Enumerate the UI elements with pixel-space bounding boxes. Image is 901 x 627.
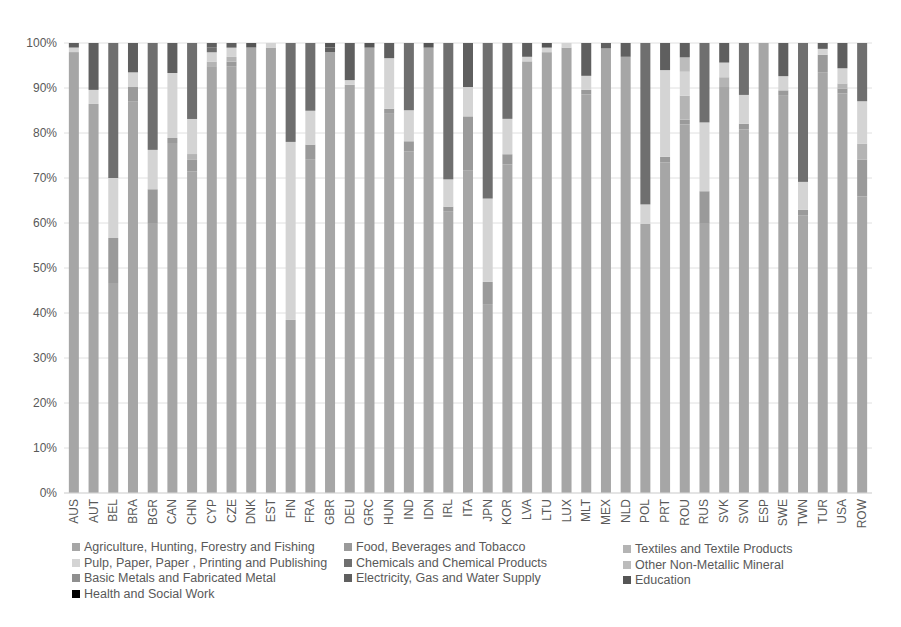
bar-segment <box>818 49 828 55</box>
bar-segment <box>680 72 690 96</box>
legend-label: Health and Social Work <box>84 587 214 601</box>
bar-segment <box>384 58 394 109</box>
bar-segment <box>148 43 158 150</box>
bar-esp <box>759 43 769 493</box>
bar-segment <box>660 162 670 493</box>
legend-label: Electricity, Gas and Water Supply <box>356 571 541 585</box>
y-tick-label: 100% <box>26 36 57 50</box>
legend-label: Agriculture, Hunting, Forestry and Fishi… <box>84 540 315 554</box>
y-tick-label: 60% <box>33 216 57 230</box>
legend-swatch-icon <box>344 543 352 551</box>
y-tick-label: 40% <box>33 306 57 320</box>
bar-segment <box>699 223 709 493</box>
legend-item-food: Food, Beverages and Tobacco <box>344 540 525 554</box>
legend-label: Basic Metals and Fabricated Metal <box>84 571 276 585</box>
bar-chn <box>187 43 197 493</box>
bar-cyp <box>207 43 217 493</box>
bar-segment <box>404 43 414 110</box>
bar-segment <box>502 154 512 164</box>
bar-dnk <box>246 43 256 493</box>
x-tick-label: BRA <box>126 499 140 524</box>
y-tick-label: 30% <box>33 351 57 365</box>
x-tick-label: GBR <box>323 499 337 525</box>
bar-segment <box>69 52 79 493</box>
bar-twn <box>798 43 808 493</box>
legend-item-non-metallic: Other Non-Metallic Mineral <box>623 558 784 572</box>
bar-segment <box>818 55 828 73</box>
bar-fra <box>305 43 315 493</box>
bar-segment <box>581 43 591 76</box>
bar-prt <box>660 43 670 493</box>
x-tick-label: KOR <box>500 499 514 525</box>
bar-mex <box>601 43 611 493</box>
x-tick-label: CZE <box>225 499 239 523</box>
bar-segment <box>857 144 867 160</box>
bar-segment <box>364 48 374 493</box>
bar-segment <box>148 223 158 493</box>
legend-swatch-icon <box>623 561 631 569</box>
x-tick-label: ROU <box>678 499 692 526</box>
bar-segment <box>187 43 197 119</box>
legend-label: Other Non-Metallic Mineral <box>635 558 784 572</box>
bar-segment <box>857 159 867 196</box>
x-tick-label: NLD <box>619 499 633 523</box>
y-tick-label: 80% <box>33 126 57 140</box>
bar-segment <box>286 142 296 320</box>
bar-segment <box>857 197 867 493</box>
y-tick-label: 20% <box>33 396 57 410</box>
bar-segment <box>778 43 788 76</box>
legend-swatch-icon <box>72 590 80 598</box>
bar-segment <box>680 124 690 493</box>
x-tick-label: LVA <box>520 499 534 520</box>
bar-aut <box>89 43 99 493</box>
bar-segment <box>305 43 315 111</box>
bar-segment <box>660 157 670 162</box>
bar-segment <box>798 210 808 216</box>
x-tick-label: CHN <box>185 499 199 525</box>
bar-segment <box>778 95 788 493</box>
bar-segment <box>719 87 729 493</box>
bar-segment <box>857 43 867 101</box>
bar-segment <box>167 43 177 73</box>
legend-label: Textiles and Textile Products <box>635 542 793 556</box>
bar-segment <box>739 43 749 95</box>
bar-segment <box>837 43 847 68</box>
x-tick-label: SWE <box>776 499 790 526</box>
legend-item-basic-metals: Basic Metals and Fabricated Metal <box>72 571 276 585</box>
bar-segment <box>522 57 532 62</box>
x-tick-label: LUX <box>560 499 574 522</box>
bar-rou <box>680 43 690 493</box>
legend-swatch-icon <box>344 574 352 582</box>
bar-segment <box>463 116 473 170</box>
bar-segment <box>483 282 493 304</box>
bar-segment <box>818 43 828 49</box>
bar-irl <box>443 43 453 493</box>
x-tick-label: DNK <box>244 499 258 524</box>
x-tick-label: CYP <box>205 499 219 524</box>
bar-segment <box>542 48 552 53</box>
bar-gbr <box>325 43 335 493</box>
y-axis: 0%10%20%30%40%50%60%70%80%90%100% <box>26 36 57 500</box>
bar-segment <box>739 95 749 124</box>
y-tick-label: 70% <box>33 171 57 185</box>
x-tick-label: LTU <box>540 499 554 521</box>
bar-segment <box>463 43 473 87</box>
legend-item-electricity: Electricity, Gas and Water Supply <box>344 571 541 585</box>
x-tick-label: IRL <box>441 499 455 518</box>
bar-segment <box>207 43 217 48</box>
bar-segment <box>601 48 611 493</box>
bar-segment <box>305 111 315 145</box>
legend-label: Chemicals and Chemical Products <box>356 556 547 570</box>
bar-segment <box>857 101 867 143</box>
bar-segment <box>384 109 394 114</box>
bar-segment <box>837 94 847 493</box>
bar-segment <box>345 85 355 493</box>
x-tick-label: ROW <box>855 498 869 528</box>
bar-ita <box>463 43 473 493</box>
bar-segment <box>621 57 631 493</box>
bar-segment <box>148 189 158 223</box>
bar-segment <box>69 43 79 48</box>
bar-fin <box>286 43 296 493</box>
bar-segment <box>89 90 99 104</box>
x-tick-label: MEX <box>599 499 613 525</box>
